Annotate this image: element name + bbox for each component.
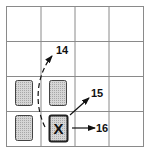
piece-x: X (50, 116, 68, 142)
label-15: 15 (91, 87, 103, 99)
piece-r3c1 (16, 81, 33, 106)
x-marker: X (53, 120, 63, 137)
label-16: 16 (96, 122, 108, 134)
piece-r3c2 (50, 81, 67, 106)
piece-r4c1 (16, 116, 33, 141)
grid-diagram: X 14 15 16 (0, 0, 145, 151)
arrow-15 (70, 98, 89, 115)
label-14: 14 (56, 44, 69, 56)
